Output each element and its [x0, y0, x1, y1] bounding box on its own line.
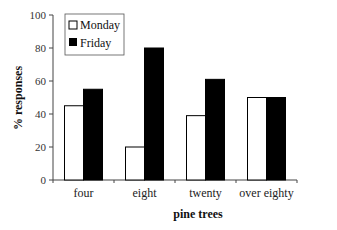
bar-monday	[248, 98, 267, 181]
y-axis-title: % responses	[11, 66, 25, 130]
legend: Monday Friday	[65, 14, 124, 55]
y-tick-label: 80	[35, 42, 47, 54]
bars	[65, 48, 286, 180]
bar-monday	[126, 147, 145, 180]
x-axis-title: pine trees	[173, 207, 223, 221]
x-tick-label: twenty	[189, 186, 222, 200]
x-tick-label: over eighty	[239, 186, 293, 200]
y-tick-label: 100	[30, 9, 47, 21]
bar-friday	[145, 48, 164, 180]
y-tick-label: 60	[35, 75, 47, 87]
bar-friday	[267, 98, 286, 181]
legend-label-friday: Friday	[80, 36, 111, 50]
legend-swatch-monday	[69, 21, 77, 29]
x-tick-label: eight	[133, 186, 158, 200]
bar-monday	[65, 106, 84, 180]
bar-friday	[84, 89, 103, 180]
legend-swatch-friday	[69, 38, 77, 46]
legend-label-monday: Monday	[80, 18, 120, 32]
bar-monday	[187, 116, 206, 180]
y-tick-label: 0	[41, 174, 47, 186]
x-tick-label: four	[74, 186, 94, 200]
y-tick-label: 40	[35, 108, 47, 120]
y-axis: 020406080100	[30, 9, 54, 186]
x-axis: foureighttwentyover eighty	[53, 180, 297, 200]
y-tick-label: 20	[35, 141, 47, 153]
bar-friday	[206, 79, 225, 180]
bar-chart: 020406080100 foureighttwentyover eighty …	[0, 0, 337, 230]
